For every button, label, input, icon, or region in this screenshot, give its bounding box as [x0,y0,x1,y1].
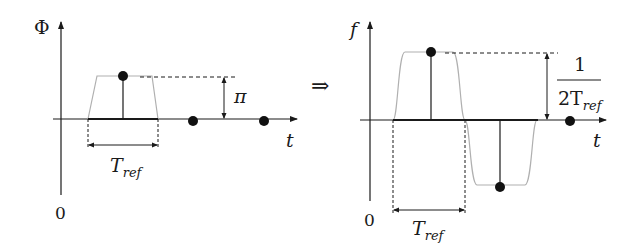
frequency-diagram: 1 2Tref f t 0 Tref [348,18,606,243]
implies-arrow: ⇒ [311,73,329,98]
amplitude-denominator: 2Tref [558,87,604,113]
f-origin-label: 0 [364,210,375,230]
frequency-sample-dot [426,47,436,57]
frequency-sample-dot [565,116,575,126]
phase-sample-dot [259,116,269,126]
phase-amplitude-label: π [233,85,247,107]
phi-t-label: t [286,129,294,151]
phase-diagram: Φ t 0 π Tref [34,16,297,223]
diagram-canvas: Φ t 0 π Tref ⇒ 1 2Tref f t [0,0,636,252]
phase-sample-dot [188,116,198,126]
phi-axis-label: Φ [34,16,50,38]
frequency-width-label: Tref [412,217,446,243]
phase-width-label: Tref [110,154,144,180]
f-axis-label: f [348,18,360,40]
phi-origin-label: 0 [55,203,66,223]
frequency-sample-dot [495,182,505,192]
amplitude-numerator: 1 [574,53,586,75]
f-t-label: t [593,129,601,151]
phase-sample-dot [118,71,128,81]
